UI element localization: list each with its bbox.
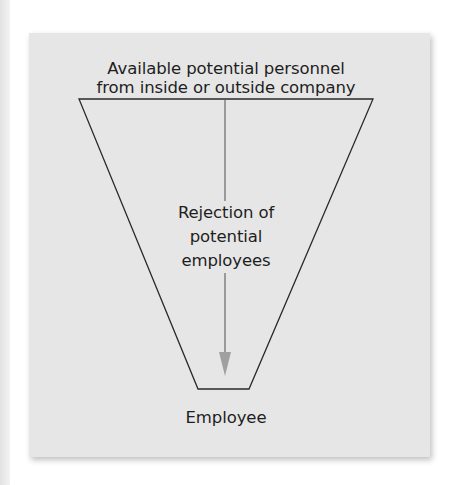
flow-arrow-head <box>219 352 231 376</box>
rejection-label-line1: Rejection of <box>176 201 276 225</box>
source-pool-label: Available potential personnel from insid… <box>60 59 392 97</box>
employee-label: Employee <box>150 408 302 427</box>
source-pool-label-line1: Available potential personnel <box>60 59 392 78</box>
rejection-label-line2: potential <box>188 225 265 249</box>
rejection-label: Rejection of potential employees <box>150 201 302 273</box>
rejection-label-line3: employees <box>179 249 272 273</box>
source-pool-label-line2: from inside or outside company <box>60 78 392 97</box>
